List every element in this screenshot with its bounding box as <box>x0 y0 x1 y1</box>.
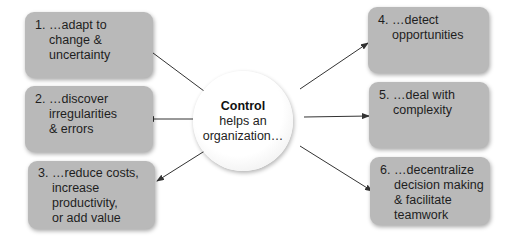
arrow-to-box-4 <box>300 43 368 89</box>
arrow-to-box-1 <box>145 47 204 91</box>
box-adapt-to-change: 1.…adapt to change & uncertainty <box>25 12 153 78</box>
center-circle-control: Control helps an organization… <box>193 71 293 171</box>
box-discover-irregularities: 2.…discover irregularities & errors <box>25 86 153 152</box>
center-line-3: organization… <box>203 129 284 144</box>
center-title: Control <box>221 99 265 114</box>
center-line-2: helps an <box>219 114 266 129</box>
box-deal-with-complexity: 5.…deal with complexity <box>369 82 489 148</box>
arrow-to-box-5 <box>304 116 369 117</box>
box-decentralize-decision-making: 6.…decentralize decision making & facili… <box>370 157 490 225</box>
box-detect-opportunities: 4.…detect opportunities <box>368 7 489 73</box>
arrow-to-box-6 <box>300 146 372 191</box>
box-reduce-costs: 3.…reduce costs, increase productivity, … <box>28 161 155 229</box>
